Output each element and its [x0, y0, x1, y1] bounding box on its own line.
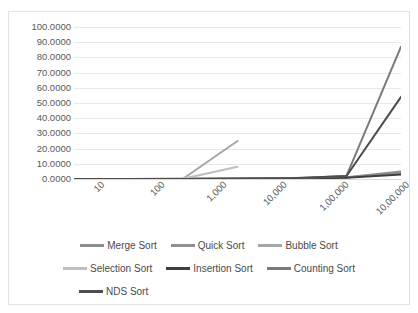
x-axis: 101001,00010,0001,00,00010,00,0001,00,00… — [74, 179, 414, 224]
legend-swatch-icon — [258, 244, 282, 247]
legend-row: Selection SortInsertion SortCounting Sor… — [19, 257, 399, 280]
y-axis-tick-label: 70.0000 — [9, 68, 71, 78]
y-axis-tick-label: 80.0000 — [9, 52, 71, 62]
legend-item-insertion-sort[interactable]: Insertion Sort — [166, 263, 252, 274]
legend-label: Selection Sort — [90, 263, 152, 274]
legend-row: NDS Sort — [19, 280, 399, 303]
y-axis-tick-label: 100.0000 — [9, 22, 71, 32]
legend-item-nds-sort[interactable]: NDS Sort — [79, 286, 148, 297]
legend-label: Counting Sort — [294, 263, 355, 274]
legend-swatch-icon — [79, 290, 103, 293]
legend-item-merge-sort[interactable]: Merge Sort — [80, 240, 156, 251]
legend-swatch-icon — [267, 267, 291, 270]
y-axis-tick-label: 20.0000 — [9, 144, 71, 154]
chart-legend: Merge SortQuick SortBubble SortSelection… — [19, 234, 399, 303]
y-axis-tick-label: 60.0000 — [9, 83, 71, 93]
legend-row: Merge SortQuick SortBubble Sort — [19, 234, 399, 257]
x-axis-tick-label: 100 — [147, 179, 166, 198]
legend-label: Bubble Sort — [285, 240, 337, 251]
y-axis-tick-label: 90.0000 — [9, 37, 71, 47]
legend-label: NDS Sort — [106, 286, 148, 297]
y-axis-tick-label: 10.0000 — [9, 159, 71, 169]
series-line — [74, 141, 238, 179]
legend-item-quick-sort[interactable]: Quick Sort — [171, 240, 245, 251]
y-axis-tick-label: 0.0000 — [9, 174, 71, 184]
y-axis-tick-label: 40.0000 — [9, 113, 71, 123]
legend-label: Quick Sort — [198, 240, 245, 251]
legend-swatch-icon — [63, 267, 87, 270]
legend-item-counting-sort[interactable]: Counting Sort — [267, 263, 355, 274]
chart-lines — [74, 27, 401, 179]
plot-area — [74, 27, 401, 179]
legend-item-selection-sort[interactable]: Selection Sort — [63, 263, 152, 274]
x-axis-tick-label: 1,000 — [204, 179, 229, 204]
x-axis-tick-label: 10 — [91, 179, 106, 194]
series-line — [74, 167, 238, 179]
x-axis-tick-label: 1,00,000 — [317, 179, 351, 213]
x-axis-tick-label: 10,000 — [260, 179, 288, 207]
legend-swatch-icon — [166, 267, 190, 270]
legend-item-bubble-sort[interactable]: Bubble Sort — [258, 240, 337, 251]
legend-label: Insertion Sort — [193, 263, 252, 274]
legend-swatch-icon — [171, 244, 195, 247]
x-axis-tick-label: 10,00,000 — [373, 179, 411, 217]
y-axis-tick-label: 50.0000 — [9, 98, 71, 108]
series-line — [74, 47, 401, 179]
legend-swatch-icon — [80, 244, 104, 247]
chart-container: 0.000010.000020.000030.000040.000050.000… — [8, 11, 410, 305]
legend-label: Merge Sort — [107, 240, 156, 251]
y-axis-tick-label: 30.0000 — [9, 128, 71, 138]
y-axis: 0.000010.000020.000030.000040.000050.000… — [9, 12, 71, 194]
